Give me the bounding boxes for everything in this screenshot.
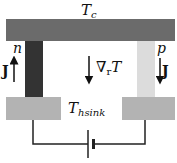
circuit-wire xyxy=(33,120,145,144)
diagram-lines xyxy=(0,0,177,163)
battery-icon xyxy=(88,130,95,158)
